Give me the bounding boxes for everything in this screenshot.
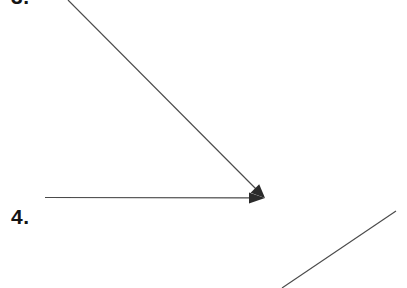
item-number-label-3: 3. — [11, 0, 30, 7]
lower-right-diagonal-segment — [282, 211, 396, 288]
lower-right-segment-figure — [282, 211, 396, 288]
descending-diagonal-ray — [68, 0, 258, 191]
worksheet-page: 3. 4. — [0, 0, 407, 288]
item-number-label-4: 4. — [11, 206, 30, 227]
angle-figure — [45, 0, 265, 204]
geometry-figure-canvas — [0, 0, 407, 288]
